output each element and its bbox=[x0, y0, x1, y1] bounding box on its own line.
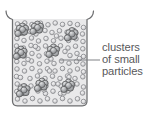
single-particle bbox=[81, 99, 86, 104]
single-particle bbox=[18, 75, 23, 80]
cluster-member-particle bbox=[30, 28, 36, 34]
single-particle bbox=[33, 44, 38, 49]
single-particle bbox=[30, 96, 35, 101]
single-particle bbox=[38, 99, 43, 104]
single-particle bbox=[51, 89, 56, 94]
single-particle bbox=[81, 85, 86, 90]
single-particle bbox=[59, 59, 64, 64]
cluster-member-particle bbox=[15, 30, 21, 36]
single-particle bbox=[45, 97, 50, 102]
single-particle bbox=[73, 76, 78, 81]
single-particle bbox=[47, 69, 52, 74]
single-particle bbox=[68, 99, 73, 104]
single-particle bbox=[44, 36, 49, 41]
single-particle bbox=[81, 47, 86, 52]
single-particle bbox=[43, 44, 48, 49]
single-particle bbox=[38, 69, 43, 74]
annotation-line-2: of small bbox=[102, 53, 140, 65]
single-particle bbox=[51, 82, 56, 87]
single-particle bbox=[22, 38, 27, 43]
annotation-line-1: clusters bbox=[102, 41, 140, 53]
single-particle bbox=[75, 97, 80, 102]
single-particle bbox=[75, 82, 80, 87]
single-particle bbox=[60, 96, 65, 101]
cluster-member-particle bbox=[13, 53, 19, 59]
single-particle bbox=[57, 29, 62, 34]
single-particle bbox=[81, 62, 86, 67]
single-particle bbox=[46, 23, 51, 28]
cluster-member-particle bbox=[34, 85, 40, 91]
single-particle bbox=[81, 25, 86, 30]
single-particle bbox=[37, 62, 42, 67]
single-particle bbox=[29, 43, 34, 48]
single-particle bbox=[80, 91, 85, 96]
single-particle bbox=[37, 54, 42, 59]
cluster-member-particle bbox=[16, 91, 22, 97]
cluster-member-particle bbox=[61, 86, 67, 92]
single-particle bbox=[28, 76, 33, 81]
single-particle bbox=[56, 82, 61, 87]
single-particle bbox=[58, 76, 63, 81]
particle-diagram-figure: clusters of small particles bbox=[0, 0, 156, 114]
single-particle bbox=[22, 69, 27, 74]
single-particle bbox=[15, 97, 20, 102]
single-particle bbox=[81, 70, 86, 75]
single-particle bbox=[30, 51, 35, 56]
cluster-member-particle bbox=[46, 51, 52, 57]
single-particle bbox=[52, 61, 57, 66]
single-particle bbox=[15, 36, 20, 41]
single-particle bbox=[60, 66, 65, 71]
single-particle bbox=[63, 49, 68, 54]
single-particle bbox=[68, 69, 73, 74]
single-particle bbox=[75, 67, 80, 72]
single-particle bbox=[36, 39, 41, 44]
single-particle bbox=[22, 61, 27, 66]
single-particle bbox=[67, 61, 72, 66]
single-particle bbox=[50, 74, 55, 79]
single-particle bbox=[54, 34, 59, 39]
single-particle bbox=[75, 51, 80, 56]
annotation-line-3: particles bbox=[102, 65, 143, 77]
single-particle bbox=[51, 39, 56, 44]
single-particle bbox=[53, 21, 58, 26]
single-particle bbox=[75, 22, 80, 27]
single-particle bbox=[50, 30, 55, 35]
single-particle bbox=[81, 75, 86, 80]
single-particle bbox=[14, 59, 19, 64]
single-particle bbox=[26, 57, 31, 62]
single-particle bbox=[53, 69, 58, 74]
single-particle bbox=[81, 39, 86, 44]
single-particle bbox=[67, 75, 72, 80]
single-particle bbox=[35, 74, 40, 79]
single-particle bbox=[80, 32, 85, 37]
single-particle bbox=[60, 22, 65, 27]
single-particle bbox=[68, 21, 73, 26]
cluster-member-particle bbox=[64, 35, 70, 41]
single-particle bbox=[15, 67, 20, 72]
single-particle bbox=[30, 66, 35, 71]
single-particle bbox=[53, 99, 58, 104]
single-particle bbox=[29, 36, 34, 41]
single-particle bbox=[23, 99, 28, 104]
diagram-canvas: clusters of small particles bbox=[0, 0, 156, 114]
single-particle bbox=[59, 36, 64, 41]
single-particle bbox=[43, 28, 48, 33]
single-particle bbox=[73, 44, 78, 49]
single-particle bbox=[68, 53, 73, 58]
